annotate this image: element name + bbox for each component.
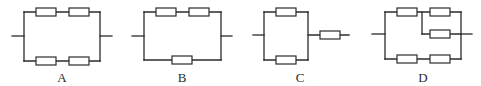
- circuit-d: [372, 8, 472, 63]
- resistor-icon: [172, 56, 192, 64]
- circuit-figure: A B C D: [0, 0, 481, 86]
- label-d: D: [418, 71, 427, 84]
- resistor-icon: [69, 57, 89, 65]
- circuit-b: [132, 8, 232, 64]
- circuit-a: [12, 8, 112, 65]
- resistor-icon: [320, 31, 340, 39]
- circuit-c: [253, 8, 349, 64]
- resistor-icon: [156, 8, 176, 16]
- resistor-icon: [276, 8, 296, 16]
- label-a: A: [57, 71, 66, 84]
- resistor-icon: [430, 55, 450, 63]
- resistor-icon: [430, 30, 450, 38]
- resistor-icon: [189, 8, 209, 16]
- resistor-icon: [430, 8, 450, 16]
- resistor-icon: [69, 8, 89, 16]
- label-c: C: [296, 71, 305, 84]
- resistor-icon: [36, 8, 56, 16]
- resistor-icon: [276, 56, 296, 64]
- label-b: B: [178, 71, 187, 84]
- resistor-icon: [36, 57, 56, 65]
- resistor-icon: [397, 8, 417, 16]
- resistor-icon: [397, 55, 417, 63]
